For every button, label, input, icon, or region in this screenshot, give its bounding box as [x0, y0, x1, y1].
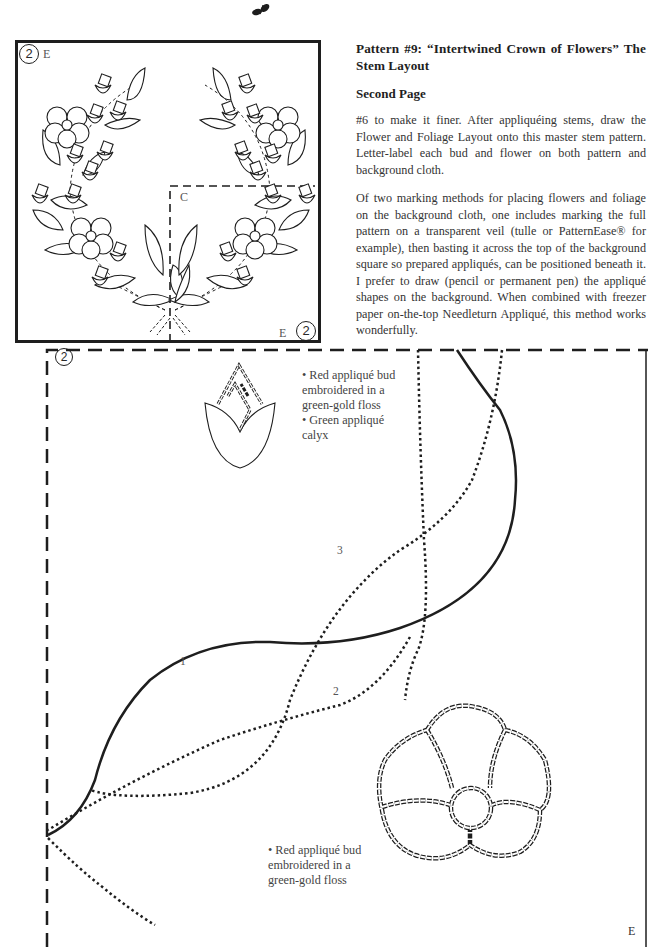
embroidered-flower-diagram [379, 706, 549, 859]
flower-note: • Red appliqué bud embroidered in a gree… [268, 843, 378, 888]
page-title: Pattern #9: “Intertwined Crown of Flower… [356, 40, 646, 74]
note-line: embroidered in a [268, 858, 378, 873]
corner-letter-bottom-right: E [279, 326, 286, 341]
bud-note: • Red appliqué bud embroidered in a gree… [302, 368, 422, 443]
paragraph: #6 to make it finer. After appliquéing s… [356, 112, 646, 178]
stem-label-2: 2 [333, 685, 339, 697]
corner-letter-top-left: E [43, 47, 50, 62]
section-number-badge-bottom: 2 [296, 321, 316, 341]
paragraph: Of two marking methods for placing flowe… [356, 190, 646, 339]
corner-letter-e: E [628, 924, 635, 939]
text-column: Pattern #9: “Intertwined Crown of Flower… [356, 40, 646, 351]
section-number-badge-detail: 2 [55, 348, 73, 366]
note-line: green-gold floss [268, 873, 378, 888]
note-line: embroidered in a [302, 383, 422, 398]
bud-calyx-diagram [205, 365, 275, 468]
stem-label-3: 3 [337, 544, 343, 556]
page-subtitle: Second Page [356, 86, 646, 102]
section-letter-c: C [180, 190, 188, 205]
note-line: • Red appliqué bud [268, 843, 378, 858]
leaf-sprig-ornament-icon [250, 2, 272, 18]
note-line: green-gold floss [302, 398, 422, 413]
overview-wreath-figure: 2 E C E 2 [15, 40, 353, 372]
note-line: • Red appliqué bud [302, 368, 422, 383]
section-number-badge: 2 [19, 44, 39, 64]
note-line: • Green appliqué [302, 413, 422, 428]
stem-label-1: 1 [180, 655, 186, 667]
note-line: calyx [302, 428, 422, 443]
